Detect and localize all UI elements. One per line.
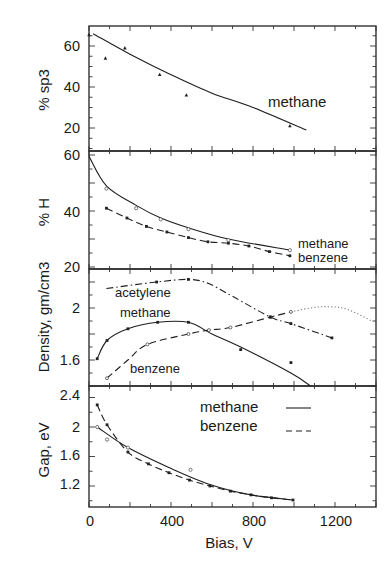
density-acetylene-data-point	[155, 281, 158, 284]
x-tick-1200: 1200	[320, 513, 352, 529]
density-benzene-label: benzene	[130, 361, 180, 376]
gap-benzene-data-point	[96, 403, 99, 406]
density-methane-data-point	[187, 321, 190, 324]
hydrogen-benzene-data-point	[187, 236, 190, 239]
hydrogen-benzene-data-point	[207, 240, 210, 243]
hydrogen-benzene-label: benzene	[298, 250, 348, 265]
x-tick-0: 0	[86, 513, 94, 529]
gap-methane-curve	[97, 427, 293, 500]
multi-panel-chart: % sp3 % H Density, gm/cm3 Gap, eV 60 40 …	[0, 0, 392, 575]
x-tick-400: 400	[160, 513, 184, 529]
sp3-methane-label: methane	[268, 93, 326, 110]
sp3-methane-data-point	[185, 93, 189, 96]
hydrogen-benzene-data-point	[227, 242, 230, 245]
density-acetylene-data-point	[331, 337, 334, 340]
density-methane-data-point	[239, 348, 242, 351]
density-acetylene-data-point	[187, 278, 190, 281]
legend-benzene-label: benzene	[200, 417, 258, 434]
gap-benzene-data-point	[106, 423, 109, 426]
sp3-tick-20: 20	[64, 120, 80, 136]
hydrogen-methane-data-point	[159, 218, 162, 221]
hydrogen-benzene-data-point	[268, 250, 271, 253]
hydrogen-tick-60: 60	[64, 147, 80, 163]
density-acetylene-label: acetylene	[115, 285, 171, 300]
gap-benzene-data-point	[250, 493, 253, 496]
legend-methane-label: methane	[200, 398, 258, 415]
hydrogen-methane-data-point	[227, 239, 230, 242]
gap-axis-title: Gap, eV	[35, 422, 52, 477]
sp3-methane-data-point	[123, 46, 127, 49]
hydrogen-tick-40: 40	[64, 204, 80, 220]
density-benzene-data-point	[207, 329, 210, 332]
hydrogen-methane-data-point	[105, 187, 108, 190]
hydrogen-benzene-data-point	[145, 225, 148, 228]
hydrogen-benzene-data-point	[289, 254, 292, 257]
gap-benzene-data-point	[147, 462, 150, 465]
gap-benzene-data-point	[270, 496, 273, 499]
gap-benzene-data-point	[168, 471, 171, 474]
density-benzene-data-point	[229, 326, 232, 329]
density-benzene-extrapolation--curve	[291, 307, 372, 321]
gap-tick-1-6: 1.6	[60, 447, 80, 463]
hydrogen-benzene-data-point	[166, 231, 169, 234]
gap-methane-data-point	[126, 446, 129, 449]
density-tick-2: 2	[72, 300, 80, 316]
hydrogen-benzene-data-point	[126, 217, 129, 220]
density-methane-data-point	[106, 339, 109, 342]
hydrogen-methane-curve	[89, 156, 290, 250]
density-benzene-data-point	[289, 310, 292, 313]
gap-methane-data-point	[189, 468, 192, 471]
density-acetylene-data-point	[290, 322, 293, 325]
gap-benzene-data-point	[209, 485, 212, 488]
gap-tick-2-4: 2.4	[60, 387, 80, 403]
hydrogen-benzene-data-point	[105, 207, 108, 210]
sp3-methane-data-point	[104, 56, 108, 59]
hydrogen-methane-data-point	[288, 249, 291, 252]
density-methane-data-point	[290, 361, 293, 364]
x-axis-title: Bias, V	[205, 534, 253, 551]
sp3-panel-frame	[89, 26, 376, 151]
gap-legend: methane benzene	[200, 398, 311, 434]
gap-methane-data-point	[105, 438, 108, 441]
hydrogen-methane-data-point	[135, 207, 138, 210]
gap-tick-2: 2	[72, 419, 80, 435]
density-axis-title: Density, gm/cm3	[35, 262, 52, 373]
hydrogen-tick-20: 20	[64, 259, 80, 275]
hydrogen-benzene-curve	[106, 208, 290, 256]
hydrogen-methane-data-point	[187, 228, 190, 231]
density-benzene-data-point	[187, 333, 190, 336]
density-tick-1-6: 1.6	[60, 352, 80, 368]
density-methane-data-point	[156, 321, 159, 324]
x-tick-800: 800	[242, 513, 266, 529]
sp3-axis-title: % sp3	[35, 69, 52, 111]
density-methane-label: methane	[120, 305, 171, 320]
sp3-methane-data-point	[87, 33, 91, 36]
hydrogen-axis-title: % H	[35, 198, 52, 226]
gap-benzene-data-point	[127, 451, 130, 454]
sp3-tick-60: 60	[64, 38, 80, 54]
density-methane-data-point	[127, 327, 130, 330]
hydrogen-methane-label: methane	[298, 236, 349, 251]
density-methane-data-point	[96, 357, 99, 360]
hydrogen-benzene-data-point	[248, 245, 251, 248]
gap-tick-1-2: 1.2	[60, 476, 80, 492]
gap-methane-data-point	[96, 425, 99, 428]
density-acetylene-data-point	[269, 316, 272, 319]
gap-benzene-data-point	[188, 479, 191, 482]
density-benzene-data-point	[106, 377, 109, 380]
gap-benzene-data-point	[292, 499, 295, 502]
density-benzene-data-point	[146, 343, 149, 346]
sp3-methane-data-point	[288, 124, 292, 127]
gap-benzene-data-point	[229, 490, 232, 493]
tick-marks	[89, 26, 376, 507]
sp3-methane-data-point	[158, 73, 162, 76]
sp3-tick-40: 40	[64, 79, 80, 95]
